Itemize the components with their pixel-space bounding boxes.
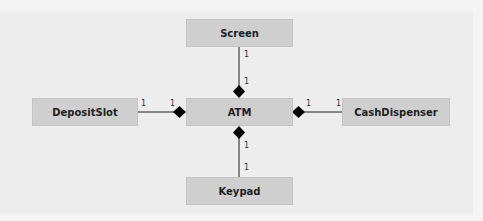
multiplicity-label: 1	[141, 100, 146, 108]
multiplicity-label: 1	[244, 142, 249, 150]
class-name: ATM	[228, 107, 252, 118]
class-screen[interactable]: Screen	[186, 19, 293, 47]
class-atm[interactable]: ATM	[186, 98, 293, 126]
multiplicity-label: 1	[336, 100, 341, 108]
class-name: CashDispenser	[354, 107, 438, 118]
class-name: Screen	[220, 28, 259, 39]
composition-diamond-icon	[292, 106, 305, 118]
composition-diamond-icon	[233, 85, 245, 98]
class-depositslot[interactable]: DepositSlot	[32, 98, 138, 126]
composition-diamond-icon	[233, 126, 245, 139]
multiplicity-label: 1	[244, 51, 249, 59]
class-name: Keypad	[219, 186, 261, 197]
class-keypad[interactable]: Keypad	[186, 177, 293, 205]
class-name: DepositSlot	[52, 107, 118, 118]
multiplicity-label: 1	[170, 100, 175, 108]
multiplicity-label: 1	[244, 164, 249, 172]
multiplicity-label: 1	[244, 78, 249, 86]
class-cashdispenser[interactable]: CashDispenser	[342, 98, 450, 126]
multiplicity-label: 1	[306, 100, 311, 108]
